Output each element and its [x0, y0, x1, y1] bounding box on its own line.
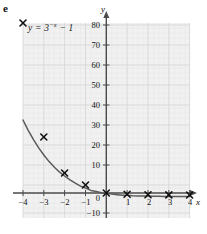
y-tick-label: 70	[80, 41, 100, 50]
equation-base: y = 3	[28, 23, 49, 33]
x-tick-label: 4	[181, 198, 199, 207]
x-tick-label: 3	[161, 198, 179, 207]
y-tick-label: 80	[80, 21, 100, 30]
y-tick-label: 10	[80, 161, 100, 170]
x-tick-label: −3	[35, 198, 53, 207]
y-tick-label: −10	[78, 209, 100, 218]
x-tick-label: 2	[140, 198, 158, 207]
figure-container: e	[0, 0, 207, 234]
x-tick-label: −1	[77, 198, 95, 207]
x-tick-label: −4	[14, 198, 32, 207]
x-tick-label: 1	[119, 198, 137, 207]
y-tick-label: 60	[80, 61, 100, 70]
equation-annotation: y = 3−x − 1	[28, 23, 74, 33]
y-tick-label: 30	[80, 121, 100, 130]
y-tick-label: 20	[80, 141, 100, 150]
y-axis-label: y	[101, 5, 105, 14]
x-tick-label: −2	[56, 198, 74, 207]
y-tick-label: 50	[80, 81, 100, 90]
equation-exponent: −x	[49, 21, 57, 28]
y-tick-label: 40	[80, 101, 100, 110]
equation-tail: − 1	[57, 23, 74, 33]
